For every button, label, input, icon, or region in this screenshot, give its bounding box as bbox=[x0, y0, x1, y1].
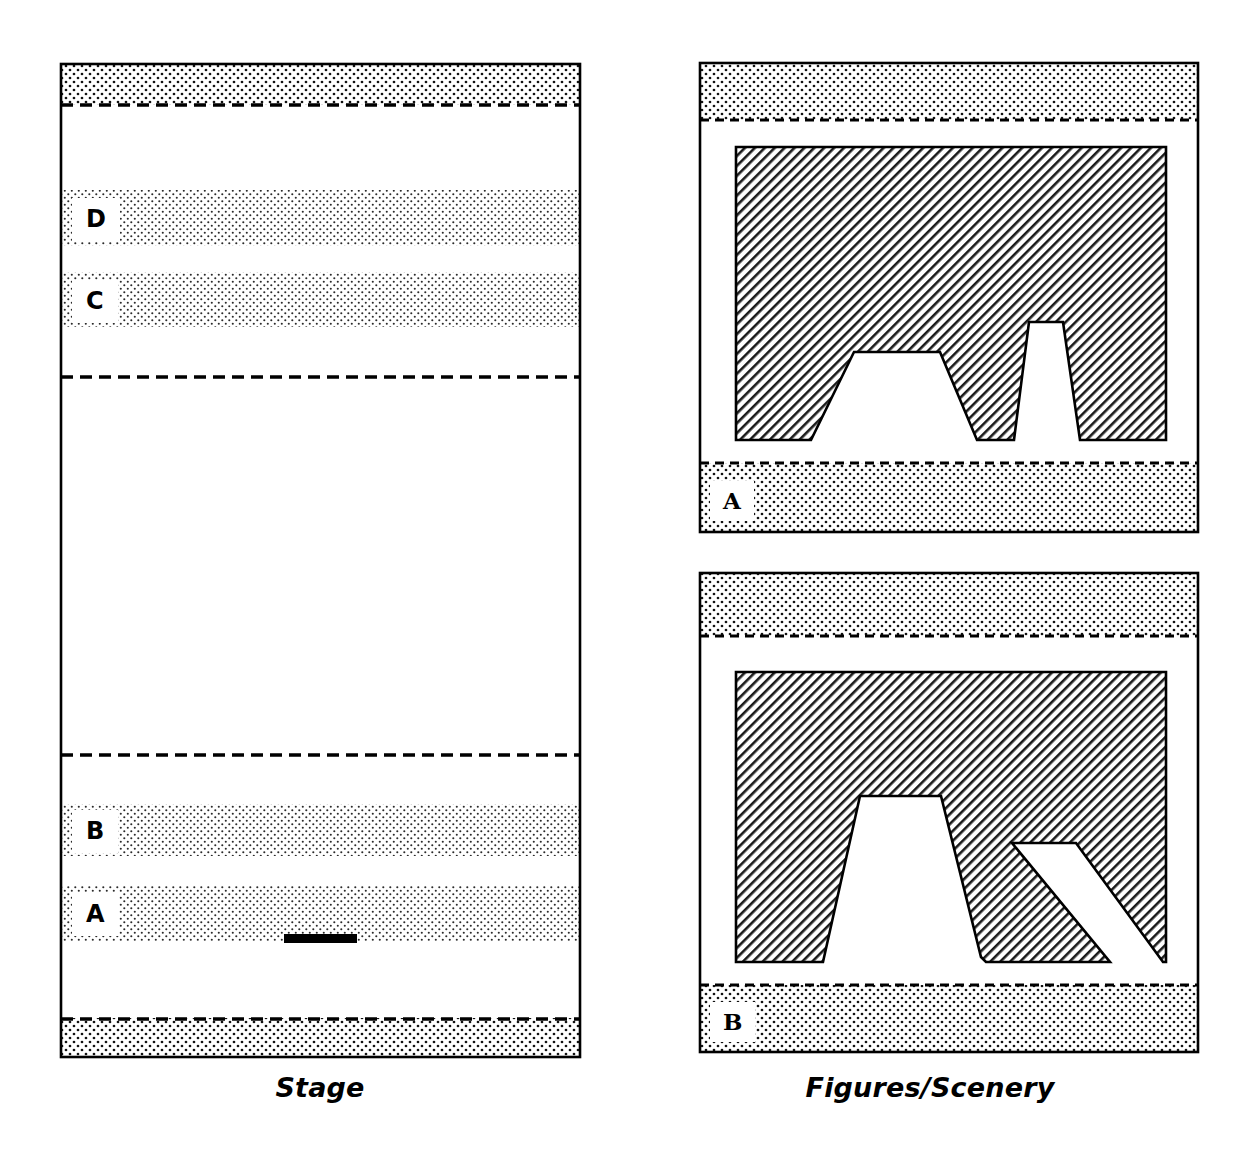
stage-panel bbox=[61, 64, 580, 1057]
figure-panel-b bbox=[700, 573, 1198, 1052]
stage-band-label-c: C bbox=[72, 280, 118, 323]
figure-b-bottom-dotted-band bbox=[700, 985, 1198, 1052]
stage-band-label-d: D bbox=[72, 198, 120, 241]
figure-panel-label-a: A bbox=[710, 481, 754, 521]
figure-canvas: D C B A A B Stage Figures/Scenery bbox=[0, 0, 1245, 1158]
figure-panel-a bbox=[700, 63, 1198, 532]
stage-top-dotted-band bbox=[61, 64, 580, 105]
stage-band-label-a: A bbox=[72, 893, 119, 936]
figure-panel-label-b: B bbox=[710, 1002, 755, 1042]
caption-figures: Figures/Scenery bbox=[660, 1072, 1200, 1103]
figure-b-top-dotted-band bbox=[700, 573, 1198, 636]
stage-marker-bar bbox=[284, 934, 357, 943]
stage-band-B bbox=[61, 804, 580, 856]
figure-b-hatch-fill bbox=[736, 672, 1166, 962]
stage-band-label-b: B bbox=[72, 810, 118, 853]
figure-a-top-dotted-band bbox=[700, 63, 1198, 120]
stage-band-A bbox=[61, 886, 580, 941]
stage-bottom-dotted-band bbox=[61, 1018, 580, 1057]
figure-a-bottom-dotted-band bbox=[700, 463, 1198, 532]
stage-band-D bbox=[61, 190, 580, 246]
stage-band-C bbox=[61, 272, 580, 327]
caption-stage: Stage bbox=[0, 1072, 640, 1103]
diagram-svg bbox=[0, 0, 1245, 1158]
figure-a-hatch-fill bbox=[736, 147, 1166, 440]
